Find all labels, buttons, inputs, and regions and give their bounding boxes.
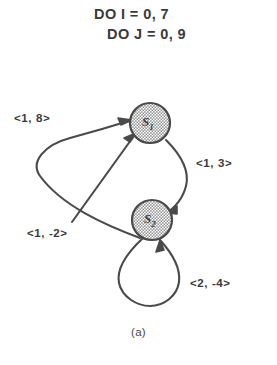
figure-caption: (a) [0,326,277,338]
edge-label-1-3: <1, 3> [196,157,232,169]
edge-path-1-8 [37,118,140,238]
node-s2[interactable] [132,200,172,240]
edge-label-1-8: <1, 8> [14,112,50,124]
edge-path-1-minus-2 [72,133,136,222]
edge-label-2-minus-4: <2, -4> [190,277,231,289]
dependence-graph-figure: DO I = 0, 7 DO J = 0, 9 [0,0,277,365]
edge-path-2-minus-4-self-loop [119,238,180,306]
edge-label-1-minus-2: <1, -2> [27,227,68,239]
graph-drawing [0,0,277,365]
node-s1[interactable] [130,103,170,143]
edge-path-1-3 [166,140,187,214]
